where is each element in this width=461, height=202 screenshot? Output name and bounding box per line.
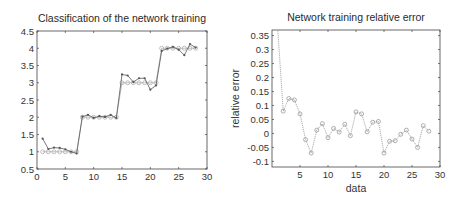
y-axis-label: relative error: [229, 69, 241, 128]
data-point: [110, 114, 112, 116]
data-point: [189, 43, 191, 45]
x-tick-label: 20: [379, 169, 390, 180]
y-tick-label: 0.5: [21, 164, 34, 175]
y-tick-label: 0.35: [251, 30, 270, 41]
y-tick-label: 2: [29, 112, 34, 123]
data-point: [70, 151, 72, 153]
y-tick-label: -0.1: [253, 156, 269, 167]
data-point: [276, 25, 280, 29]
chart-title: Network training relative error: [287, 11, 425, 23]
x-axis-label: data: [346, 182, 367, 194]
x-tick-label: 5: [297, 169, 302, 180]
y-tick-label: 1: [29, 146, 34, 157]
data-point: [195, 46, 197, 48]
data-point: [427, 129, 431, 133]
data-point: [365, 130, 369, 134]
x-tick-label: 5: [63, 171, 68, 182]
data-point: [172, 46, 174, 48]
x-tick-label: 25: [407, 169, 418, 180]
relative-error-chart: Network training relative error510152025…: [229, 11, 445, 194]
data-point: [144, 77, 146, 79]
data-point: [183, 54, 185, 56]
data-point: [166, 47, 168, 49]
data-point: [155, 84, 157, 86]
data-point: [127, 74, 129, 76]
data-point: [98, 115, 100, 117]
y-tick-label: 0.1: [256, 100, 269, 111]
chart-title: Classification of the network training: [38, 12, 206, 24]
y-tick-label: 4.5: [21, 26, 34, 37]
series-line: [278, 27, 429, 153]
data-point: [149, 89, 151, 91]
series-line: [43, 48, 196, 152]
y-tick-label: 3: [29, 77, 34, 88]
x-tick-label: 10: [323, 169, 334, 180]
data-point: [87, 114, 89, 116]
y-tick-label: 4: [29, 43, 34, 54]
data-point: [332, 126, 336, 130]
data-point: [320, 122, 324, 126]
y-tick-label: 0.25: [251, 58, 270, 69]
data-point: [132, 81, 134, 83]
y-tick-label: 2.5: [21, 95, 34, 106]
x-tick-label: 30: [435, 169, 446, 180]
y-tick-label: 0.15: [251, 86, 270, 97]
x-tick-label: 25: [173, 171, 184, 182]
data-point: [64, 148, 66, 150]
data-point: [121, 73, 123, 75]
data-point: [115, 117, 117, 119]
y-tick-label: 0: [264, 128, 269, 139]
y-tick-label: 0.2: [256, 72, 269, 83]
data-point: [42, 138, 44, 140]
x-tick-label: 30: [202, 171, 213, 182]
classification-chart: Classification of the network training05…: [21, 12, 213, 182]
data-point: [81, 115, 83, 117]
data-point: [178, 49, 180, 51]
x-tick-label: 10: [88, 171, 99, 182]
y-tick-label: 0.3: [256, 44, 269, 55]
plot-frame: [272, 30, 440, 167]
data-point: [343, 122, 347, 126]
series-line: [43, 44, 196, 153]
data-point: [104, 116, 106, 118]
chart-canvas: Classification of the network training05…: [0, 0, 461, 202]
y-tick-label: 0.05: [251, 114, 270, 125]
data-point: [161, 50, 163, 52]
x-tick-label: 20: [145, 171, 156, 182]
data-point: [93, 117, 95, 119]
data-point: [138, 77, 140, 79]
x-tick-label: 15: [117, 171, 128, 182]
y-tick-label: 1.5: [21, 129, 34, 140]
data-point: [59, 147, 61, 149]
x-tick-label: 15: [351, 169, 362, 180]
y-tick-label: 3.5: [21, 60, 34, 71]
data-point: [399, 132, 403, 136]
x-tick-label: 0: [34, 171, 39, 182]
y-tick-label: -0.05: [247, 142, 269, 153]
data-point: [47, 148, 49, 150]
data-point: [53, 147, 55, 149]
data-point: [76, 152, 78, 154]
